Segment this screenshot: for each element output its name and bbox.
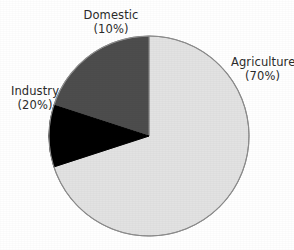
pie-label-domestic-percent: (10%) — [70, 23, 152, 37]
pie-label-agriculture: Agriculture (70%) — [231, 56, 294, 83]
pie-label-agriculture-name: Agriculture — [231, 56, 294, 70]
pie-label-agriculture-percent: (70%) — [231, 70, 294, 84]
pie-chart-canvas — [0, 0, 294, 250]
pie-label-industry-name: Industry — [2, 85, 68, 99]
pie-chart-figure: Domestic (10%) Agriculture (70%) Industr… — [0, 0, 294, 250]
pie-label-domestic: Domestic (10%) — [70, 9, 152, 36]
pie-label-domestic-name: Domestic — [70, 9, 152, 23]
pie-label-industry-percent: (20%) — [2, 99, 68, 113]
pie-label-industry: Industry (20%) — [2, 85, 68, 112]
